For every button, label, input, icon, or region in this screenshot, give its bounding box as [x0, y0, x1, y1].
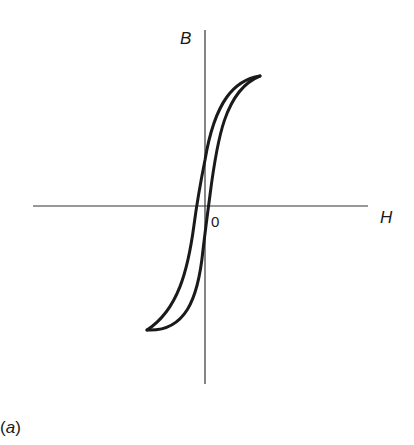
figure-caption: (a)	[0, 418, 21, 438]
b-axis-label: B	[180, 29, 191, 48]
origin-label: 0	[211, 213, 219, 230]
hysteresis-diagram: B H 0	[0, 0, 414, 445]
hysteresis-loop-ascending-branch	[147, 76, 260, 330]
h-axis-label: H	[380, 208, 393, 227]
caption-close-paren: )	[15, 418, 21, 437]
caption-letter: a	[6, 418, 15, 437]
hysteresis-loop-descending-branch	[147, 76, 260, 330]
